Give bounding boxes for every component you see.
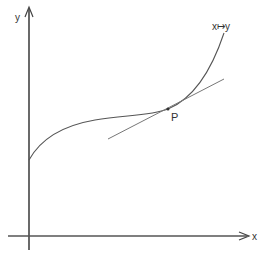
curve-label: x↦y bbox=[212, 21, 230, 32]
y-axis-label: y bbox=[15, 12, 20, 23]
graph-canvas: y x P x↦y bbox=[0, 0, 262, 262]
function-curve bbox=[29, 33, 224, 160]
tangent-line bbox=[108, 79, 224, 139]
point-p-label: P bbox=[171, 111, 178, 123]
x-axis-label: x bbox=[252, 231, 257, 242]
point-p-marker bbox=[167, 108, 170, 111]
